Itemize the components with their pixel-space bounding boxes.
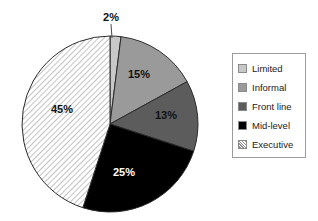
legend-item-mid-level[interactable]: Mid-level [238, 116, 305, 135]
legend-label: Mid-level [252, 120, 290, 131]
legend-label: Executive [252, 139, 293, 150]
legend-swatch-icon-executive [238, 140, 247, 149]
pie-value-label-executive: 45% [51, 103, 73, 115]
legend-item-informal[interactable]: Informal [238, 78, 305, 97]
legend-swatch-icon-front-line [238, 102, 247, 111]
pie-value-label-limited: 2% [103, 11, 119, 23]
pie-value-label-informal: 15% [128, 68, 150, 80]
pie-value-label-front-line: 13% [155, 109, 177, 121]
legend-item-front-line[interactable]: Front line [238, 97, 305, 116]
legend-label: Informal [252, 82, 286, 93]
legend-swatch-icon-informal [238, 83, 247, 92]
legend-item-executive[interactable]: Executive [238, 135, 305, 154]
legend-label: Limited [252, 63, 283, 74]
pie-value-label-mid-level: 25% [113, 166, 135, 178]
legend-item-limited[interactable]: Limited [238, 59, 305, 78]
legend-label: Front line [252, 101, 292, 112]
legend-swatch-icon-limited [238, 64, 247, 73]
legend-swatch-icon-mid-level [238, 121, 247, 130]
chart-legend: LimitedInformalFront lineMid-levelExecut… [232, 53, 306, 158]
pie-slices-group [22, 36, 198, 212]
pie-chart-figure: 2%15%13%25%45% LimitedInformalFront line… [0, 0, 318, 221]
